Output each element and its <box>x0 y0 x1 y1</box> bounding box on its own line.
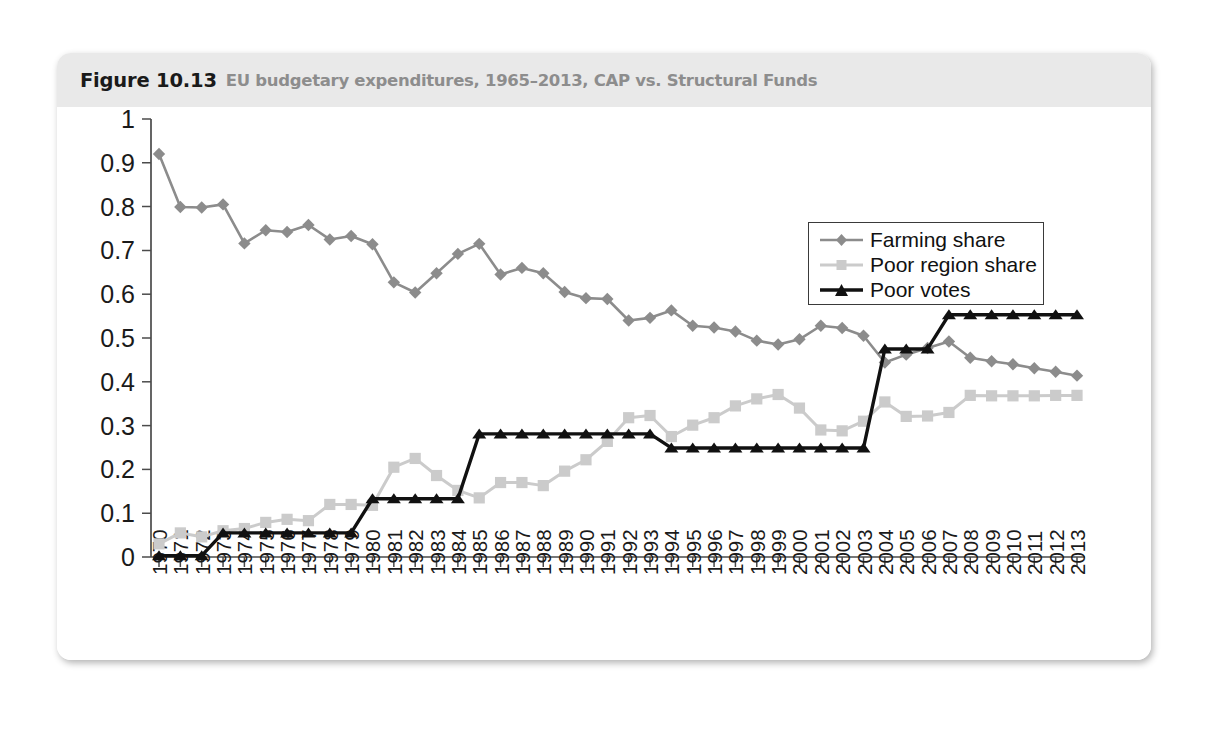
data-point-marker <box>495 477 506 488</box>
data-point-marker <box>410 453 421 464</box>
data-point-marker <box>281 514 292 525</box>
data-point-marker <box>815 320 827 332</box>
figure-header: Figure 10.13 EU budgetary expenditures, … <box>57 53 1151 107</box>
x-axis-tick-label: 2009 <box>981 529 1004 575</box>
y-axis-tick-label: 0.8 <box>100 193 135 221</box>
x-axis-tick-label: 1981 <box>383 529 406 575</box>
legend-item-poor-region-share: Poor region share <box>809 252 1043 277</box>
data-point-marker <box>388 276 400 288</box>
line-chart: 00.10.20.30.40.50.60.70.80.91 1970197119… <box>57 107 1151 660</box>
x-axis-tick-label: 2000 <box>788 529 811 575</box>
data-point-marker <box>538 480 549 491</box>
data-point-marker <box>346 499 357 510</box>
data-point-marker <box>623 412 634 423</box>
data-point-marker <box>773 389 784 400</box>
x-axis-tick-label: 2002 <box>831 529 854 575</box>
x-axis-tick-label: 1980 <box>361 529 384 575</box>
data-point-marker <box>729 325 741 337</box>
data-point-marker <box>388 462 399 473</box>
x-axis-tick-label: 2005 <box>895 529 918 575</box>
legend-label-farming-share: Farming share <box>870 228 1005 252</box>
x-axis-tick-label: 2011 <box>1023 531 1046 575</box>
series-layer <box>152 148 1084 560</box>
data-point-marker <box>281 226 293 238</box>
data-point-marker <box>751 334 763 346</box>
data-point-marker <box>666 431 677 442</box>
data-point-marker <box>580 292 592 304</box>
legend-item-farming-share: Farming share <box>809 227 1043 252</box>
data-point-marker <box>901 411 912 422</box>
x-axis-tick-label: 2007 <box>938 529 961 575</box>
y-axis-tick-label: 0.3 <box>100 412 135 440</box>
x-axis-tick-label: 1989 <box>554 529 577 575</box>
data-point-marker <box>986 390 997 401</box>
data-point-marker <box>644 410 655 421</box>
data-point-marker <box>195 201 207 213</box>
figure-caption: EU budgetary expenditures, 1965–2013, CA… <box>226 71 817 90</box>
data-point-marker <box>836 322 848 334</box>
series-line-poor-region-share <box>159 395 1077 544</box>
data-point-marker <box>965 390 976 401</box>
x-axis-tick-label: 1998 <box>746 529 769 575</box>
data-point-marker <box>516 262 528 274</box>
data-point-marker <box>751 393 762 404</box>
data-point-marker <box>793 333 805 345</box>
figure-card: Figure 10.13 EU budgetary expenditures, … <box>57 53 1151 660</box>
legend-label-poor-votes: Poor votes <box>870 278 970 302</box>
x-axis-tick-label: 2006 <box>917 529 940 575</box>
x-axis-tick-label: 1996 <box>703 529 726 575</box>
y-axis-tick-label: 0 <box>121 543 135 571</box>
y-axis-tick-label: 0.7 <box>100 236 135 264</box>
data-point-marker <box>730 400 741 411</box>
data-point-marker <box>175 527 186 538</box>
legend-item-poor-votes: Poor votes <box>809 277 1043 302</box>
x-axis-tick-label: 2010 <box>1002 529 1025 575</box>
y-axis-tick-label: 1 <box>121 107 135 133</box>
x-axis-tick-label: 1990 <box>575 529 598 575</box>
x-axis-tick-label: 1983 <box>426 529 449 575</box>
x-axis-tick-label: 1992 <box>618 529 641 575</box>
data-point-marker <box>772 338 784 350</box>
y-axis-tick-label: 0.4 <box>100 368 135 396</box>
data-point-marker <box>174 201 186 213</box>
data-point-marker <box>260 517 271 528</box>
data-point-marker <box>815 424 826 435</box>
data-point-marker <box>366 238 378 250</box>
data-point-marker <box>794 402 805 413</box>
x-axis-tick-label: 1985 <box>468 529 491 575</box>
data-point-marker <box>1028 362 1040 374</box>
chart-legend: Farming share Poor region share Poor vot… <box>808 222 1044 305</box>
data-point-marker <box>879 396 890 407</box>
x-axis-tick-label: 2001 <box>810 529 833 575</box>
legend-sample-poor-votes <box>818 280 865 300</box>
data-point-marker <box>516 477 527 488</box>
data-point-marker <box>1049 366 1061 378</box>
data-point-marker <box>1029 390 1040 401</box>
data-point-marker <box>687 420 698 431</box>
data-point-marker <box>303 515 314 526</box>
x-axis-tick-label: 2008 <box>959 529 982 575</box>
legend-label-poor-region-share: Poor region share <box>870 253 1037 277</box>
y-axis-tick-label: 0.2 <box>100 455 135 483</box>
data-point-marker <box>708 412 719 423</box>
data-point-marker <box>1071 369 1083 381</box>
y-axis: 00.10.20.30.40.50.60.70.80.91 <box>100 107 151 571</box>
x-axis-tick-label: 1982 <box>404 529 427 575</box>
y-axis-tick-label: 0.6 <box>100 280 135 308</box>
y-axis-tick-label: 0.1 <box>100 499 135 527</box>
x-axis-tick-label: 2012 <box>1045 529 1068 575</box>
x-axis-tick-label: 2004 <box>874 529 897 575</box>
data-point-marker <box>217 198 229 210</box>
data-point-marker <box>985 355 997 367</box>
data-point-marker <box>837 425 848 436</box>
data-point-marker <box>1071 390 1082 401</box>
data-point-marker <box>708 321 720 333</box>
x-axis-tick-label: 1991 <box>596 529 619 575</box>
data-point-marker <box>324 499 335 510</box>
data-point-marker <box>580 454 591 465</box>
data-point-marker <box>153 148 165 160</box>
chart-plot-area: 00.10.20.30.40.50.60.70.80.91 1970197119… <box>57 107 1151 660</box>
data-point-marker <box>559 466 570 477</box>
data-point-marker <box>943 407 954 418</box>
data-point-marker <box>644 312 656 324</box>
